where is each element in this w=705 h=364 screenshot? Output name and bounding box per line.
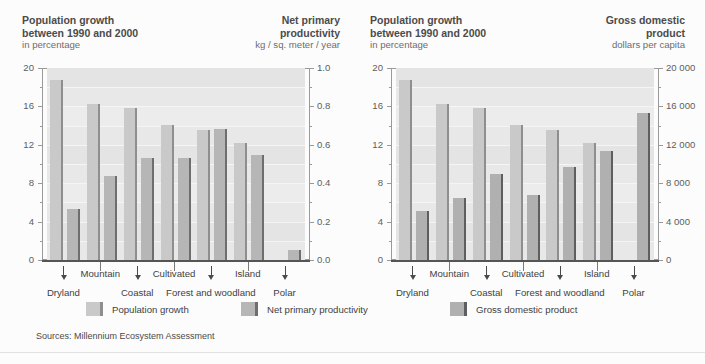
- axis-tick-minor: [40, 241, 42, 242]
- axis-tick-minor: [659, 126, 661, 127]
- axis-tick-minor: [389, 202, 391, 203]
- axis-tick-major: [659, 222, 663, 223]
- category-pointer-arrow: [408, 266, 417, 281]
- legend-swatch-icon: [450, 302, 467, 316]
- category-pointer-arrow: [630, 266, 639, 281]
- bar-population-growth: [583, 143, 596, 260]
- header-pop-left-line2: between 1990 and 2000: [22, 27, 212, 40]
- grid-line: [396, 183, 654, 184]
- category-pointer-arrow: [207, 266, 216, 281]
- header-pop-left-line1: Population growth: [22, 14, 212, 27]
- plot-area-npp: [47, 68, 305, 260]
- axis-tick-major: [659, 260, 663, 261]
- category-tick: [523, 262, 524, 271]
- bar-population-growth: [197, 130, 210, 260]
- header-npp-unit: kg / sq. meter / year: [190, 39, 340, 52]
- plot-band: [396, 222, 654, 241]
- figure-root: Population growth between 1990 and 2000 …: [0, 0, 705, 364]
- axis-tick-major: [387, 68, 391, 69]
- grid-line: [47, 87, 305, 88]
- axis-tick-minor: [40, 164, 42, 165]
- grid-line: [396, 202, 654, 203]
- axis-tick-major: [387, 145, 391, 146]
- sources-note: Sources: Millennium Ecosystem Assessment: [36, 331, 215, 341]
- axis-tick-label-percentage: 20: [0, 63, 383, 73]
- axis-tick-minor: [310, 164, 312, 165]
- axis-tick-minor: [659, 241, 661, 242]
- category-pointer-arrow: [482, 266, 491, 281]
- bar-population-growth: [436, 104, 449, 260]
- axis-tick-label-percentage: 4: [0, 217, 383, 227]
- axis-tick-minor: [389, 87, 391, 88]
- header-population-growth-left: Population growth between 1990 and 2000 …: [22, 14, 212, 52]
- axis-tick-major: [659, 145, 663, 146]
- grid-line: [396, 106, 654, 107]
- axis-tick-label-gdp: 4 000: [666, 217, 690, 227]
- bar-gross-domestic-product: [563, 167, 576, 260]
- category-pointer-arrow: [281, 266, 290, 281]
- header-pop-left-unit: in percentage: [22, 39, 212, 52]
- plot-band: [396, 68, 654, 87]
- legend-label: Population growth: [112, 304, 189, 315]
- axis-tick-minor: [389, 164, 391, 165]
- header-net-primary-productivity: Net primary productivity kg / sq. meter …: [190, 14, 340, 52]
- plot-band: [396, 106, 654, 125]
- axis-tick-minor: [389, 241, 391, 242]
- grid-line: [396, 145, 654, 146]
- header-npp-line2: productivity: [190, 27, 340, 40]
- axis-tick-label-gdp: 20 000: [666, 63, 695, 73]
- axis-tick-major: [659, 183, 663, 184]
- chart-legend: Population growthNet primary productivit…: [0, 300, 705, 322]
- axis-tick-label-gdp: 12 000: [666, 140, 695, 150]
- grid-line: [47, 164, 305, 165]
- chart-panel-gdp: [396, 68, 654, 260]
- axis-tick-minor: [310, 202, 312, 203]
- axis-tick-label-gdp: 16 000: [666, 101, 695, 111]
- header-gdp-line1: Gross domestic: [530, 14, 685, 27]
- header-gross-domestic-product: Gross domestic product dollars per capit…: [530, 14, 685, 52]
- baseline-right-chart: [391, 260, 659, 262]
- legend-label: Net primary productivity: [267, 304, 368, 315]
- axis-tick-minor: [659, 202, 661, 203]
- axis-tick-major: [659, 106, 663, 107]
- category-label: Coastal: [470, 287, 503, 298]
- grid-line: [396, 222, 654, 223]
- category-pointer-arrow: [59, 266, 68, 281]
- category-label: Forest and woodland: [166, 287, 256, 298]
- bar-population-growth: [234, 143, 247, 260]
- category-label: Forest and woodland: [515, 287, 605, 298]
- category-pointer-arrow: [556, 266, 565, 281]
- bar-gross-domestic-product: [600, 151, 613, 260]
- header-gdp-line2: product: [530, 27, 685, 40]
- axis-tick-label-percentage: 16: [0, 101, 383, 111]
- axis-tick-minor: [389, 126, 391, 127]
- category-label: Dryland: [396, 287, 429, 298]
- axis-tick-major: [387, 183, 391, 184]
- axis-tick-minor: [659, 87, 661, 88]
- grid-line: [47, 202, 305, 203]
- axis-tick-major: [659, 68, 663, 69]
- category-pointer-arrow: [133, 266, 142, 281]
- legend-swatch-icon: [86, 302, 103, 316]
- bar-population-growth: [399, 80, 412, 260]
- axis-cap-left-top-2: [391, 68, 396, 69]
- plot-area-gdp: [396, 68, 654, 260]
- plot-band: [396, 145, 654, 164]
- bar-net-primary-productivity: [251, 155, 264, 260]
- plot-band: [396, 183, 654, 202]
- grid-line: [47, 241, 305, 242]
- axis-tick-minor: [40, 126, 42, 127]
- bar-gross-domestic-product: [637, 113, 650, 260]
- bar-gross-domestic-product: [453, 198, 466, 260]
- axis-tick-minor: [310, 87, 312, 88]
- legend-swatch-icon: [241, 302, 258, 316]
- bar-gross-domestic-product: [416, 211, 429, 260]
- axis-tick-label-percentage: 0: [0, 255, 383, 265]
- category-label: Polar: [622, 287, 644, 298]
- bar-population-growth: [546, 130, 559, 260]
- axis-tick-minor: [659, 164, 661, 165]
- bar-net-primary-productivity: [178, 158, 191, 260]
- header-npp-line1: Net primary: [190, 14, 340, 27]
- bar-gross-domestic-product: [527, 195, 540, 260]
- header-gdp-unit: dollars per capita: [530, 39, 685, 52]
